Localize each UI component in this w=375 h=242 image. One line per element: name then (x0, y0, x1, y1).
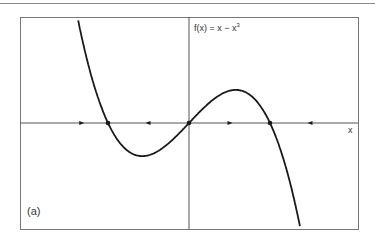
fixed-point-marker (106, 121, 111, 126)
arrow-left-icon (308, 121, 313, 125)
panel-label: (a) (27, 205, 40, 217)
arrow-right-icon (79, 121, 84, 125)
chart-title: f(x) = x − x3 (194, 22, 240, 33)
x-axis-label: x (348, 125, 353, 135)
fixed-point-marker (187, 121, 192, 126)
phase-plot (0, 0, 375, 242)
fixed-point-marker (268, 121, 273, 126)
arrow-left-icon (146, 121, 151, 125)
arrow-right-icon (228, 121, 233, 125)
